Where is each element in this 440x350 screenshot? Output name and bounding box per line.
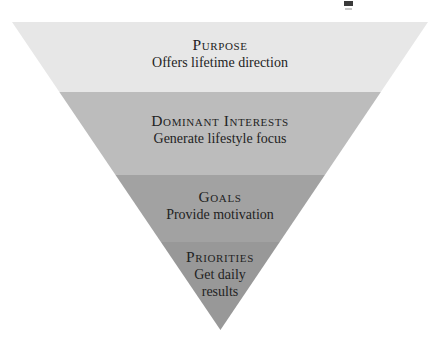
funnel-level-title-dominant-interests: Dominant Interests <box>0 112 440 130</box>
funnel-level-description-priorities: Get daily <box>0 267 440 284</box>
funnel-level-title-purpose: Purpose <box>0 36 440 54</box>
funnel-level-title-goals: Goals <box>0 188 440 206</box>
funnel-level-description-purpose: Offers lifetime direction <box>0 55 440 72</box>
funnel-level-label-dominant-interests: Dominant Interests Generate lifestyle fo… <box>0 112 440 148</box>
funnel-level-description-priorities-line2: results <box>0 284 440 301</box>
funnel-level-label-purpose: Purpose Offers lifetime direction <box>0 36 440 72</box>
funnel-level-description-goals: Provide motivation <box>0 207 440 224</box>
funnel-diagram: Purpose Offers lifetime direction Domina… <box>0 0 440 350</box>
funnel-level-label-priorities: Priorities Get daily results <box>0 248 440 300</box>
funnel-level-label-goals: Goals Provide motivation <box>0 188 440 224</box>
scan-artifact-mark <box>344 1 353 6</box>
scan-artifact-mark-secondary <box>345 8 352 10</box>
funnel-level-description-dominant-interests: Generate lifestyle focus <box>0 131 440 148</box>
funnel-level-title-priorities: Priorities <box>0 248 440 266</box>
